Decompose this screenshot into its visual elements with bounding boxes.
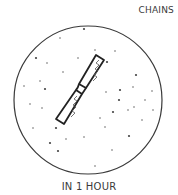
- particle-dot: [152, 109, 153, 110]
- particle-dot: [119, 89, 121, 91]
- particle-dot: [105, 91, 106, 92]
- particle-dot: [62, 71, 63, 72]
- particle-dot: [135, 74, 137, 76]
- particle-dot: [55, 127, 57, 129]
- particle-dot: [111, 149, 112, 150]
- particle-dot: [35, 57, 37, 59]
- chromosome-lower-arm: [56, 90, 82, 124]
- particle-dot: [128, 135, 130, 137]
- particle-dot: [46, 62, 47, 63]
- chromosome-upper-arm: [79, 55, 104, 88]
- particle-dot: [23, 85, 24, 86]
- particle-dot: [83, 136, 84, 137]
- particle-dot: [94, 49, 95, 50]
- particle-dot: [65, 138, 66, 139]
- particle-dot: [127, 109, 128, 110]
- particle-dot: [44, 88, 46, 90]
- chromosome-chain: [56, 55, 104, 124]
- particle-dot: [133, 106, 134, 107]
- particle-dot: [94, 165, 95, 166]
- particle-dot: [99, 117, 100, 118]
- particle-dot: [106, 61, 108, 63]
- particle-dot: [118, 99, 120, 101]
- particle-dot: [39, 80, 40, 81]
- particle-dot: [29, 103, 30, 104]
- microscope-field-diagram: [0, 0, 178, 195]
- particle-dot: [112, 111, 114, 113]
- microscope-field-circle: [14, 26, 162, 174]
- particle-dot: [83, 28, 85, 30]
- particle-dot: [57, 150, 59, 152]
- particle-dot: [49, 142, 51, 144]
- particle-dot: [104, 126, 105, 127]
- particle-dot: [144, 99, 145, 100]
- particle-dots: [23, 28, 153, 167]
- particle-dot: [151, 90, 152, 91]
- particle-dot: [32, 127, 33, 128]
- particle-dot: [132, 86, 133, 87]
- particle-dot: [77, 57, 78, 58]
- particle-dot: [114, 50, 115, 51]
- diagram-caption: IN 1 HOUR: [0, 181, 178, 192]
- particle-dot: [59, 37, 60, 38]
- particle-dot: [41, 107, 42, 108]
- particle-dot: [141, 119, 142, 120]
